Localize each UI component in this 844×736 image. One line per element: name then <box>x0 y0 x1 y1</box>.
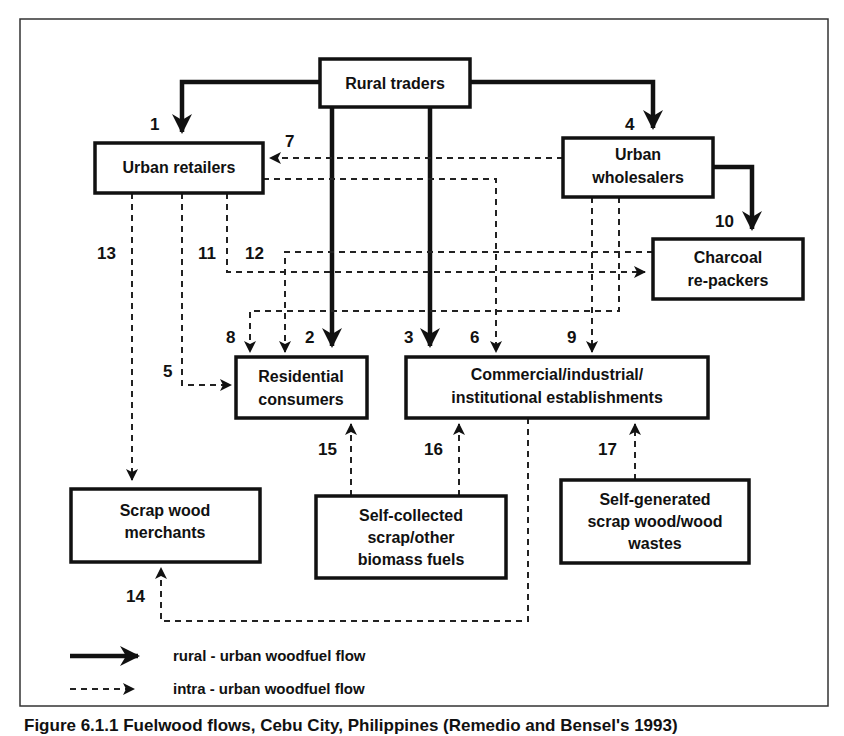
node-rural-traders: Rural traders <box>320 59 470 107</box>
node-label: Charcoal <box>694 249 762 266</box>
flow-label-9: 9 <box>567 328 576 347</box>
flow-label-14: 14 <box>126 587 145 606</box>
node-self-collected: Self-collected scrap/other biomass fuels <box>316 496 506 578</box>
node-urban-wholesalers: Urban wholesalers <box>563 138 713 197</box>
node-urban-retailers: Urban retailers <box>95 143 263 193</box>
flow-6: 6 <box>263 179 496 352</box>
node-scrap-wood-merchants: Scrap wood merchants <box>71 489 260 562</box>
flow-label-11: 11 <box>198 244 216 263</box>
flow-3: 3 <box>404 107 430 347</box>
node-label: biomass fuels <box>358 551 465 568</box>
node-label: scrap/other <box>367 529 454 546</box>
flow-15: 15 <box>318 424 351 496</box>
flow-label-4: 4 <box>625 115 635 134</box>
node-label: merchants <box>125 524 206 541</box>
flow-label-16: 16 <box>424 440 443 459</box>
node-residential-consumers: Residential consumers <box>236 357 367 418</box>
flow-1: 1 <box>150 82 320 134</box>
node-label: Rural traders <box>345 75 445 92</box>
node-label: wholesalers <box>591 169 684 186</box>
flow-5: 5 <box>163 193 231 385</box>
flow-13: 13 <box>97 193 132 480</box>
node-label: Self-collected <box>359 507 463 524</box>
node-label: Commercial/industrial/ <box>471 366 644 383</box>
node-label: Urban retailers <box>123 159 236 176</box>
flow-label-7: 7 <box>285 132 294 151</box>
flow-10: 10 <box>713 167 752 231</box>
node-label: Urban <box>615 146 661 163</box>
node-label: institutional establishments <box>451 389 663 406</box>
node-label: re-packers <box>688 272 769 289</box>
node-label: Scrap wood <box>120 502 211 519</box>
flow-label-15: 15 <box>318 440 337 459</box>
flow-label-17: 17 <box>598 440 617 459</box>
flow-label-3: 3 <box>404 328 413 347</box>
flow-17: 17 <box>598 424 635 480</box>
node-label: scrap wood/wood <box>587 513 722 530</box>
figure-caption: Figure 6.1.1 Fuelwood flows, Cebu City, … <box>24 716 678 736</box>
flow-label-2: 2 <box>305 328 314 347</box>
flow-label-10: 10 <box>715 212 734 231</box>
legend: rural - urban woodfuel flow intra - urba… <box>70 647 366 697</box>
flow-11: 11 <box>198 193 645 272</box>
node-label: consumers <box>258 391 343 408</box>
node-label: Self-generated <box>599 491 710 508</box>
flow-label-12: 12 <box>245 244 264 263</box>
flow-9: 9 <box>567 197 592 352</box>
legend-solid-label: rural - urban woodfuel flow <box>173 647 366 664</box>
flow-label-8: 8 <box>226 328 235 347</box>
flow-label-13: 13 <box>97 244 116 263</box>
flow-label-1: 1 <box>150 115 159 134</box>
legend-dashed-label: intra - urban woodfuel flow <box>173 680 365 697</box>
node-label: Residential <box>258 368 343 385</box>
flow-16: 16 <box>424 424 459 496</box>
node-self-generated: Self-generated scrap wood/wood wastes <box>561 480 749 563</box>
node-label: wastes <box>627 535 681 552</box>
flow-7: 7 <box>270 132 563 158</box>
node-charcoal-repackers: Charcoal re-packers <box>653 239 803 299</box>
flow-4: 4 <box>470 82 653 134</box>
flow-label-5: 5 <box>163 362 172 381</box>
flow-label-6: 6 <box>470 328 479 347</box>
node-commercial-establishments: Commercial/industrial/ institutional est… <box>406 357 708 418</box>
